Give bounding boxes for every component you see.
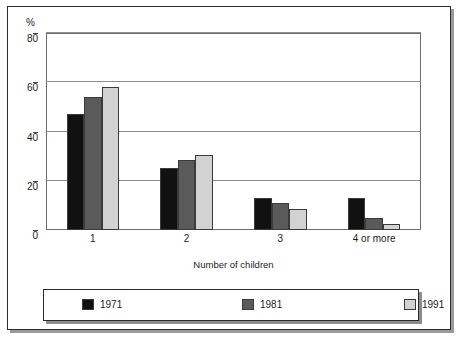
legend: 197119811991 bbox=[43, 289, 419, 321]
bar bbox=[254, 198, 272, 230]
legend-item: 1971 bbox=[82, 299, 122, 310]
bar-group bbox=[160, 33, 213, 230]
x-axis-tick-label: 4 or more bbox=[353, 233, 396, 244]
y-axis-tick bbox=[33, 82, 38, 83]
bar bbox=[365, 218, 383, 230]
bar bbox=[289, 209, 307, 230]
y-axis-unit-label: % bbox=[26, 17, 35, 28]
y-axis-tick bbox=[33, 230, 38, 231]
bars-layer bbox=[46, 33, 421, 230]
legend-label: 1991 bbox=[422, 299, 444, 310]
x-axis-tick-label: 2 bbox=[184, 233, 190, 244]
x-axis-tick-label: 1 bbox=[90, 233, 96, 244]
bar bbox=[102, 87, 120, 230]
legend-item: 1981 bbox=[242, 299, 282, 310]
y-axis-tick bbox=[33, 132, 38, 133]
bar-group bbox=[254, 33, 307, 230]
plot-area-wrapper bbox=[46, 33, 421, 230]
bar bbox=[67, 114, 85, 230]
bar bbox=[195, 155, 213, 230]
legend-swatch-icon bbox=[404, 299, 416, 310]
bar bbox=[178, 160, 196, 230]
x-axis-title: Number of children bbox=[46, 259, 421, 270]
bar bbox=[348, 198, 366, 230]
legend-item: 1991 bbox=[404, 299, 444, 310]
legend-label: 1981 bbox=[260, 299, 282, 310]
x-axis-tick-label: 3 bbox=[278, 233, 284, 244]
bar bbox=[160, 168, 178, 230]
x-axis-tick-labels: 1234 or more bbox=[46, 233, 421, 249]
y-axis-tick bbox=[33, 181, 38, 182]
y-axis-tick-labels: 020406080 bbox=[0, 33, 38, 230]
chart-figure: % 020406080 1234 or more Number of child… bbox=[0, 0, 460, 339]
bar bbox=[383, 224, 401, 230]
legend-swatch-icon bbox=[82, 299, 94, 310]
bar-group bbox=[348, 33, 401, 230]
bar bbox=[84, 97, 102, 230]
y-axis-tick bbox=[33, 33, 38, 34]
legend-swatch-icon bbox=[242, 299, 254, 310]
legend-label: 1971 bbox=[100, 299, 122, 310]
bar-group bbox=[67, 33, 120, 230]
bar bbox=[272, 203, 290, 230]
